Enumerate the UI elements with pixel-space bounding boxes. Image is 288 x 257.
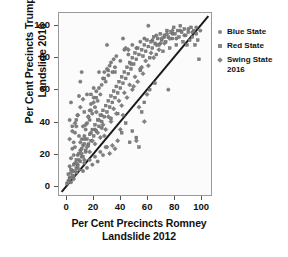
legend-label-blue-state: Blue State bbox=[227, 27, 266, 37]
x-tick-mark bbox=[93, 196, 94, 200]
scatter-chart-figure: Per Cent Precincts Trump Landslide 2016 … bbox=[0, 0, 288, 257]
y-tick-mark bbox=[54, 186, 58, 187]
y-tick-label: 40 bbox=[16, 116, 50, 127]
scatter-plot-canvas bbox=[59, 13, 211, 195]
y-tick-label: 100 bbox=[16, 19, 50, 30]
x-tick-label: 60 bbox=[132, 201, 162, 212]
x-axis-label: Per Cent Precincts Romney Landslide 2012 bbox=[44, 217, 234, 242]
x-tick-mark bbox=[174, 196, 175, 200]
x-tick-label: 40 bbox=[105, 201, 135, 212]
series-swing-state-points bbox=[66, 28, 174, 184]
legend-label-red-state: Red State bbox=[227, 41, 264, 51]
y-tick-mark bbox=[54, 25, 58, 26]
y-tick-label: 0 bbox=[16, 180, 50, 191]
y-tick-mark bbox=[54, 154, 58, 155]
x-tick-mark bbox=[120, 196, 121, 200]
y-tick-label: 80 bbox=[16, 51, 50, 62]
y-tick-label: 20 bbox=[16, 148, 50, 159]
legend-label-swing-state: Swing State 2016 bbox=[227, 55, 272, 74]
x-tick-mark bbox=[66, 196, 67, 200]
x-tick-mark bbox=[147, 196, 148, 200]
legend-square-marker-icon bbox=[216, 41, 226, 51]
x-tick-mark bbox=[201, 196, 202, 200]
legend-circle-marker-icon bbox=[216, 27, 226, 37]
x-tick-label: 100 bbox=[186, 201, 216, 212]
y-tick-mark bbox=[54, 57, 58, 58]
y-tick-label: 60 bbox=[16, 83, 50, 94]
x-tick-label: 0 bbox=[51, 201, 81, 212]
reference-line-y-equals-x bbox=[62, 16, 209, 192]
legend-diamond-marker-icon bbox=[216, 55, 226, 65]
plot-area bbox=[58, 12, 212, 196]
x-tick-label: 20 bbox=[78, 201, 108, 212]
chart-legend: Blue State Red State Swing State 2016 bbox=[216, 27, 288, 69]
x-axis-label-line1: Per Cent Precincts Romney bbox=[71, 217, 206, 229]
y-tick-mark bbox=[54, 122, 58, 123]
legend-item-swing-state: Swing State 2016 bbox=[216, 55, 288, 67]
legend-item-red-state: Red State bbox=[216, 41, 288, 53]
x-axis-label-line2: Landslide 2012 bbox=[102, 230, 176, 242]
x-tick-label: 80 bbox=[159, 201, 189, 212]
y-tick-mark bbox=[54, 89, 58, 90]
legend-item-blue-state: Blue State bbox=[216, 27, 288, 39]
